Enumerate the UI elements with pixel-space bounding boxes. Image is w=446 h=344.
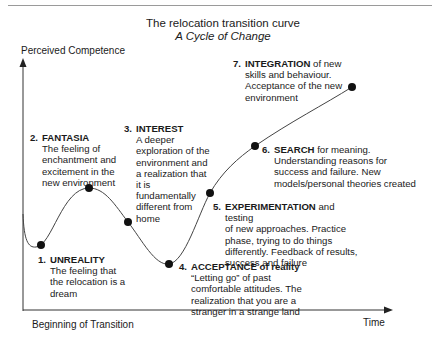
x-axis-arrow-icon bbox=[384, 307, 393, 314]
stage-3-desc: A deeper exploration of the environment … bbox=[136, 134, 210, 224]
stage-5-annotation: 5.EXPERIMENTATION and testing of new app… bbox=[225, 201, 365, 268]
stage-1-name: UNREALITY bbox=[50, 254, 105, 265]
stage-7-annotation: 7.INTEGRATION of new skills and behaviou… bbox=[245, 58, 343, 103]
stage-4-desc: “Letting go” of past comfortable attitud… bbox=[191, 272, 323, 317]
stage-3-annotation: 3.INTEREST A deeper exploration of the e… bbox=[136, 123, 210, 224]
stage-2-desc: The feeling of enchantment and excitemen… bbox=[42, 143, 122, 188]
stage-6-name: SEARCH bbox=[274, 144, 315, 155]
marker-stage-6 bbox=[251, 142, 259, 150]
stage-4-annotation: 4.ACCEPTANCE of reality “Letting go” of … bbox=[191, 261, 323, 317]
stage-2-name: FANTASIA bbox=[42, 132, 89, 143]
stage-7-name-rest: of new bbox=[310, 58, 341, 69]
stage-1-desc: The feeling that the relocation is a dre… bbox=[50, 265, 130, 299]
stage-6-desc: Understanding reasons for success and fa… bbox=[274, 155, 424, 189]
stage-5-name: EXPERIMENTATION bbox=[225, 201, 316, 212]
stage-1-annotation: 1.UNREALITY The feeling that the relocat… bbox=[50, 254, 130, 299]
marker-stage-7 bbox=[348, 83, 356, 91]
y-axis-arrow-icon bbox=[20, 58, 27, 67]
marker-stage-4 bbox=[165, 260, 173, 268]
stage-6-name-rest: for meaning. bbox=[315, 144, 371, 155]
stage-5-desc: of new approaches. Practice phase, tryin… bbox=[225, 223, 365, 268]
stage-2-annotation: 2.FANTASIA The feeling of enchantment an… bbox=[42, 132, 122, 188]
stage-7-desc: skills and behaviour. Acceptance of the … bbox=[245, 69, 343, 103]
stage-7-name: INTEGRATION bbox=[245, 58, 310, 69]
marker-stage-1 bbox=[37, 241, 45, 249]
marker-stage-3 bbox=[124, 218, 132, 226]
stage-3-name: INTEREST bbox=[136, 123, 183, 134]
stage-6-annotation: 6.SEARCH for meaning. Understanding reas… bbox=[274, 144, 424, 189]
